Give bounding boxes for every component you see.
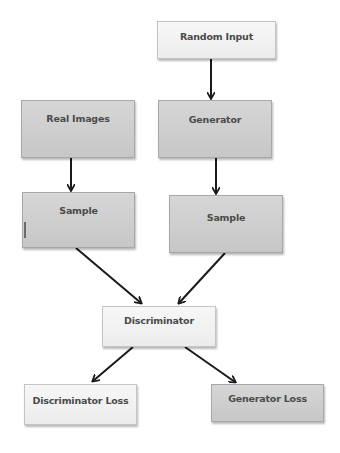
arrow-discriminator-to-discriminator-loss — [93, 347, 133, 381]
node-label: Sample — [207, 196, 245, 223]
node-sample-real: Sample — [22, 192, 135, 248]
node-label: Generator Loss — [228, 385, 307, 404]
node-label: Generator — [189, 101, 242, 125]
node-label: Discriminator Loss — [32, 385, 128, 406]
node-generator: Generator — [158, 100, 272, 158]
node-label: Random Input — [180, 22, 253, 42]
node-label: Discriminator — [124, 307, 194, 326]
node-random-input: Random Input — [157, 21, 276, 59]
node-generator-loss: Generator Loss — [211, 384, 324, 422]
node-label: Sample — [59, 193, 97, 216]
arrow-sample-real-to-discriminator — [76, 248, 141, 303]
text-cursor-mark — [24, 222, 26, 238]
node-discriminator-loss: Discriminator Loss — [24, 384, 137, 425]
arrow-sample-fake-to-discriminator — [179, 253, 225, 303]
node-discriminator: Discriminator — [102, 306, 216, 347]
node-label: Real Images — [46, 101, 109, 124]
node-real-images: Real Images — [21, 100, 135, 158]
arrow-discriminator-to-generator-loss — [185, 347, 235, 382]
node-sample-fake: Sample — [169, 195, 283, 253]
